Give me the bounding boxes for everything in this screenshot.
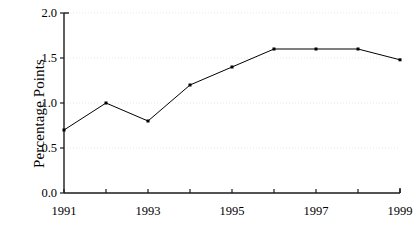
y-axis-tick-label: 2.0 — [28, 7, 57, 20]
data-point-marker — [63, 129, 66, 132]
data-point-marker — [189, 84, 192, 87]
gridlines — [64, 13, 400, 148]
line-chart: Percentage Points 0.00.51.01.52.0 199119… — [0, 0, 419, 227]
data-line — [64, 49, 400, 130]
y-axis-tick-label: 0.0 — [28, 187, 57, 200]
data-point-marker — [399, 58, 402, 61]
x-axis-tick-label: 1995 — [220, 205, 245, 218]
x-axis-tick-label: 1991 — [52, 205, 77, 218]
x-axis-tick-label: 1999 — [388, 205, 413, 218]
y-axis-tick-label: 0.5 — [28, 142, 57, 155]
y-axis-tick-label: 1.5 — [28, 52, 57, 65]
data-point-marker — [273, 48, 276, 51]
data-point-marker — [357, 48, 360, 51]
data-markers — [63, 48, 402, 132]
data-point-marker — [231, 66, 234, 69]
series-line — [64, 49, 400, 130]
x-axis-tick-label: 1997 — [304, 205, 329, 218]
data-point-marker — [105, 102, 108, 105]
data-point-marker — [315, 48, 318, 51]
y-axis-tick-label: 1.0 — [28, 97, 57, 110]
x-axis-tick-label: 1993 — [136, 205, 161, 218]
plot-area — [0, 0, 419, 227]
data-point-marker — [147, 120, 150, 123]
